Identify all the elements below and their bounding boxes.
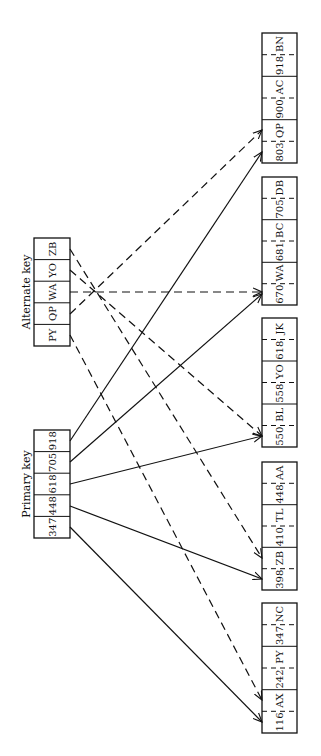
record-550: 550 BL 558 YO 618 JK [262, 318, 297, 447]
alternate-key-index: PY QP WA YO ZB [34, 238, 70, 346]
pointer-918 [70, 152, 262, 441]
pointer-705 [70, 294, 262, 462]
pointer-448 [70, 506, 262, 579]
pointer-QP [70, 130, 262, 314]
record-cell: 550 [274, 427, 285, 446]
primary-key-index: 347 448 618 705 918 [34, 430, 70, 538]
record-cell: AX [274, 692, 285, 708]
alternate-key-cell: WA [47, 283, 58, 301]
alternate-key-pointers [70, 130, 262, 700]
record-cell: 448 [274, 484, 285, 503]
record-116: 116 AX 242 PY 347 NC [262, 603, 297, 733]
primary-key-cell: 618 [47, 474, 58, 493]
alternate-key-cell: YO [47, 263, 58, 279]
record-cell: 558 [274, 384, 285, 403]
record-cell: 347 [274, 626, 285, 645]
pointer-618 [70, 436, 262, 484]
record-cell: 398 [274, 570, 285, 589]
record-cell: AC [274, 79, 285, 95]
record-803: 803 QP 900 AC 918 BN [262, 33, 297, 163]
record-cell: TL [274, 508, 285, 522]
record-cell: BL [274, 407, 285, 421]
alternate-key-cell: PY [47, 328, 58, 342]
record-cell: 900 [274, 99, 285, 118]
record-cell: ZB [274, 551, 285, 565]
record-cell: 918 [274, 56, 285, 75]
primary-key-cell: 705 [47, 453, 58, 472]
alternate-key-label: Alternate key [20, 254, 33, 331]
record-cell: 705 [274, 199, 285, 218]
record-cell: NC [274, 605, 285, 622]
primary-key-pointers [70, 152, 262, 722]
record-cell: 670 [274, 285, 285, 304]
record-cell: BN [274, 36, 285, 52]
record-398: 398 ZB 410 TL 448 AA [262, 462, 297, 590]
record-cell: 618 [274, 341, 285, 360]
record-cell: QP [274, 123, 285, 138]
primary-key-cell: 918 [47, 431, 58, 450]
record-cell: DB [274, 180, 285, 195]
record-cell: 803 [274, 142, 285, 161]
pointer-ZB [70, 249, 262, 558]
primary-key-label: Primary key [20, 449, 33, 517]
record-cell: JK [274, 323, 285, 336]
record-cell: BC [274, 222, 285, 238]
index-diagram: Primary key Alternate key 347 448 618 70… [0, 0, 321, 756]
record-cell: 410 [274, 527, 285, 546]
pointer-347 [70, 527, 262, 722]
alternate-key-cell: QP [47, 306, 58, 321]
record-cell: 116 [274, 712, 285, 731]
primary-key-cell: 347 [47, 518, 58, 537]
record-670: 670 WA 681 BC 705 DB [262, 177, 297, 305]
record-cell: 242 [274, 669, 285, 688]
record-cell: YO [274, 364, 285, 380]
record-cell: PY [274, 650, 285, 664]
primary-key-cell: 448 [47, 496, 58, 515]
alternate-key-cell: ZB [47, 242, 58, 256]
record-cell: 681 [274, 242, 285, 261]
record-cell: AA [274, 465, 285, 481]
record-cell: WA [274, 264, 285, 282]
